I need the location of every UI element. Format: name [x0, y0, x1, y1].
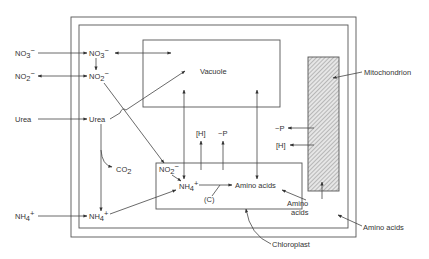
reducing-power-chloroplast: [H]: [196, 129, 206, 138]
cytosol-co2: CO2: [116, 165, 131, 176]
cytosol-ammonium: NH4+: [89, 209, 109, 223]
external-ammonium: NH4+: [15, 209, 35, 223]
svg-text:NO2−: NO2−: [89, 69, 109, 83]
chloroplast-label: Chloroplast: [272, 240, 311, 249]
cytosol-amino-acids-line2: acids: [291, 208, 309, 217]
chloroplast-amino-acids: Amino acids: [235, 181, 276, 190]
atp-mitochondrion: ~P: [275, 124, 284, 133]
cytosol-amino-acids-line1: Amino: [287, 199, 308, 208]
mitochondrion-label: Mitochondrion: [364, 68, 411, 77]
svg-text:NH4+: NH4+: [89, 209, 109, 223]
mitochondrion-box: [308, 57, 339, 191]
reducing-power-mitochondrion: [H]: [276, 141, 286, 150]
external-urea: Urea: [15, 115, 32, 124]
nitrogen-metabolism-diagram: Vacuole Mitochondrion Chloroplast NO3− N…: [0, 0, 429, 259]
external-nitrite: NO2−: [15, 69, 35, 83]
external-amino-acids: Amino acids: [363, 223, 404, 232]
cytosol-nitrite: NO2−: [89, 69, 109, 83]
chloroplast-nitrite: NO2−: [159, 162, 179, 176]
svg-text:NO3−: NO3−: [15, 46, 35, 60]
chloroplast-carbon: (C): [204, 195, 215, 204]
svg-text:NO2−: NO2−: [159, 162, 179, 176]
external-nitrate: NO3−: [15, 46, 35, 60]
svg-text:CO2: CO2: [116, 165, 131, 176]
cytosol-urea: Urea: [89, 115, 106, 124]
cytosol-nitrate: NO3−: [89, 46, 109, 60]
svg-text:NO2−: NO2−: [15, 69, 35, 83]
atp-chloroplast: ~P: [218, 129, 227, 138]
svg-text:NH4+: NH4+: [179, 179, 199, 193]
svg-text:NO3−: NO3−: [89, 46, 109, 60]
chloroplast-ammonium: NH4+: [179, 179, 199, 193]
svg-text:NH4+: NH4+: [15, 209, 35, 223]
vacuole-label: Vacuole: [200, 67, 227, 76]
